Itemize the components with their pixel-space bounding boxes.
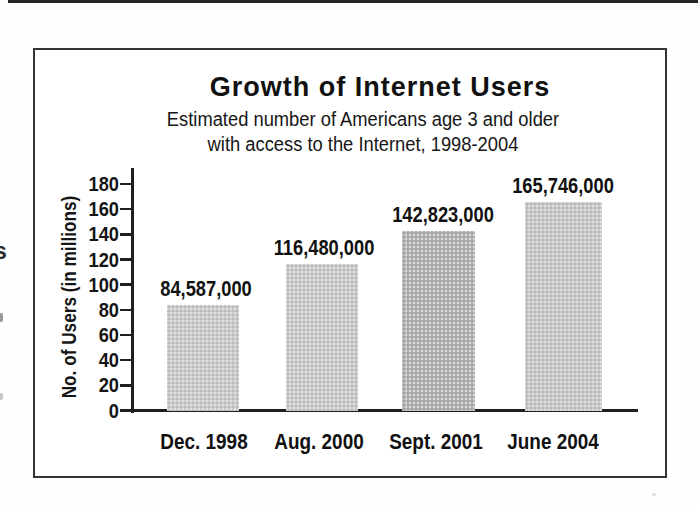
bar bbox=[402, 231, 475, 411]
bar bbox=[286, 264, 358, 411]
bar-value-label: 116,480,000 bbox=[252, 236, 397, 261]
scan-speck bbox=[652, 493, 656, 496]
margin-letter-fragment: s bbox=[0, 238, 7, 265]
y-tick-label: 180 bbox=[46, 173, 119, 195]
y-tick-mark bbox=[120, 359, 132, 362]
y-tick-label: 40 bbox=[46, 349, 119, 371]
y-tick-mark bbox=[120, 283, 132, 286]
margin-dot-artifact bbox=[0, 393, 3, 400]
page-top-rule bbox=[8, 0, 698, 3]
x-category-label: Aug. 2000 bbox=[253, 430, 385, 455]
y-tick-label: 120 bbox=[46, 249, 119, 271]
bar-value-label: 165,746,000 bbox=[491, 174, 636, 199]
bar-value-label: 84,587,000 bbox=[134, 277, 279, 302]
y-tick-mark bbox=[120, 233, 132, 236]
x-category-label: Sept. 2001 bbox=[370, 430, 502, 455]
y-tick-mark bbox=[120, 409, 132, 412]
y-tick-label: 80 bbox=[46, 299, 119, 321]
scanned-page: s Growth of Internet Users Estimated num… bbox=[0, 0, 698, 507]
y-tick-label: 20 bbox=[46, 374, 119, 396]
bar bbox=[525, 202, 602, 411]
y-tick-mark bbox=[120, 208, 132, 211]
plot-area: 02040608010012014016018084,587,000Dec. 1… bbox=[35, 50, 665, 476]
y-tick-mark bbox=[120, 334, 132, 337]
y-tick-mark bbox=[120, 384, 132, 387]
y-tick-mark bbox=[120, 309, 132, 312]
y-tick-label: 160 bbox=[46, 198, 119, 220]
margin-mark-artifact bbox=[0, 313, 3, 322]
y-tick-label: 0 bbox=[46, 400, 119, 422]
bar-value-label: 142,823,000 bbox=[371, 203, 516, 228]
y-tick-label: 140 bbox=[46, 223, 119, 245]
bar bbox=[167, 305, 239, 411]
y-tick-label: 100 bbox=[46, 274, 119, 296]
chart-frame: Growth of Internet Users Estimated numbe… bbox=[33, 48, 667, 478]
x-category-label: June 2004 bbox=[487, 430, 619, 455]
x-category-label: Dec. 1998 bbox=[138, 430, 270, 455]
y-tick-mark bbox=[120, 258, 132, 261]
y-tick-mark bbox=[120, 183, 132, 186]
y-tick-label: 60 bbox=[46, 324, 119, 346]
